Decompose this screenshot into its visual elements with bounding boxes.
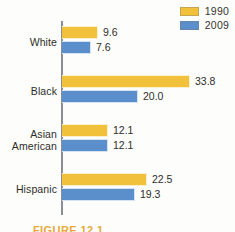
bar-value-asian-american-1990: 12.1 (113, 125, 133, 136)
plot-area: White 9.6 7.6 Black 33.8 20.0 (0, 0, 235, 232)
bar-row-hispanic-1990: 22.5 (62, 173, 172, 186)
bar-value-black-2009: 20.0 (143, 91, 163, 102)
bar-value-asian-american-2009: 12.1 (113, 140, 133, 151)
category-label-line1: Hispanic (16, 183, 57, 195)
bar-value-black-1990: 33.8 (195, 76, 215, 87)
bar-black-2009 (62, 90, 138, 103)
bar-row-asian-american-1990: 12.1 (62, 124, 133, 137)
bar-row-white-1990: 9.6 (62, 26, 118, 39)
bar-white-1990 (62, 26, 98, 39)
category-label-line1: White (30, 36, 57, 48)
category-label-line2: American (12, 140, 57, 152)
bar-value-white-2009: 7.6 (96, 42, 111, 53)
category-label-hispanic: Hispanic (0, 184, 57, 196)
bar-row-black-1990: 33.8 (62, 75, 215, 88)
bar-row-asian-american-2009: 12.1 (62, 139, 133, 152)
bar-hispanic-1990 (62, 173, 147, 186)
bar-value-hispanic-1990: 22.5 (152, 174, 172, 185)
bar-value-white-1990: 9.6 (103, 27, 118, 38)
category-label-line1: Black (31, 85, 57, 97)
bar-black-1990 (62, 75, 190, 88)
category-label-black: Black (0, 86, 57, 98)
bar-hispanic-2009 (62, 188, 135, 201)
bar-asian-american-1990 (62, 124, 108, 137)
figure-chart: 1990 2009 White 9.6 7.6 Black (0, 0, 235, 232)
bar-row-hispanic-2009: 19.3 (62, 188, 160, 201)
category-label-white: White (0, 37, 57, 49)
bar-value-hispanic-2009: 19.3 (140, 189, 160, 200)
bar-row-white-2009: 7.6 (62, 41, 111, 54)
bar-row-black-2009: 20.0 (62, 90, 163, 103)
figure-caption: FIGURE 12.1 (33, 224, 103, 232)
bar-asian-american-2009 (62, 139, 108, 152)
category-label-line1: Asian (30, 128, 57, 140)
bar-white-2009 (62, 41, 91, 54)
category-label-asian-american: Asian American (0, 129, 57, 152)
